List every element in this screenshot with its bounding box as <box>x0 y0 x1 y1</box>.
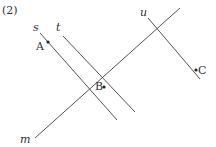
line-u <box>148 18 200 79</box>
problem-label: (2) <box>2 4 18 17</box>
line-s-label: s <box>33 21 39 34</box>
line-t-label: t <box>56 21 61 34</box>
point-c-label: C <box>198 64 206 77</box>
line-u-label: u <box>140 6 147 19</box>
point-a-label: A <box>35 40 45 53</box>
geometry-diagram: (2) s t u m A B C <box>0 0 216 147</box>
point-a <box>46 40 49 43</box>
line-s <box>40 33 117 120</box>
line-t <box>63 36 135 112</box>
line-m-label: m <box>20 133 30 146</box>
point-b-label: B <box>95 80 103 93</box>
